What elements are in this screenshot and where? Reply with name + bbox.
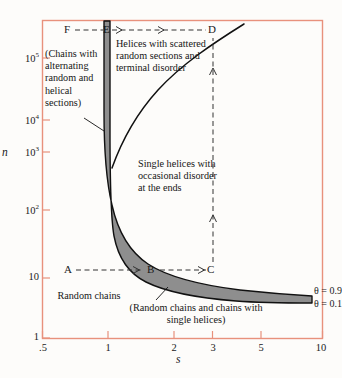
leader-alternating [84, 118, 104, 131]
theta-label-lower: θ = 0.1 [314, 299, 342, 309]
y-tick-100000: 105 [8, 52, 39, 64]
y-tick-100-exponent: 2 [36, 203, 40, 211]
y-axis-title: n [2, 146, 8, 158]
region-label-random-and-single-helices: (Random chains and chains with single he… [129, 302, 263, 326]
point-label-A: A [64, 264, 72, 275]
x-tick-5: 5 [250, 343, 272, 354]
point-label-E: E [103, 24, 110, 35]
region-label-single-helices: Single helices with occasional disorder … [138, 158, 220, 195]
y-tick-100000-exponent: 5 [36, 51, 40, 59]
region-label-helices-scattered: Helices with scattered random sections a… [116, 38, 208, 75]
y-tick-1000: 103 [8, 146, 39, 158]
x-tick-1: 1 [97, 343, 119, 354]
y-tick-10000: 104 [8, 114, 39, 126]
y-tick-10: 10 [14, 272, 39, 283]
x-tick-2: 2 [163, 343, 185, 354]
y-tick-1000-exponent: 3 [36, 145, 40, 153]
x-tick-3: 3 [202, 343, 224, 354]
x-axis-ticks [43, 331, 323, 338]
point-label-C: C [207, 264, 214, 275]
theta-label-upper: θ = 0.9 [314, 286, 342, 296]
x-axis-title: s [176, 353, 180, 365]
y-tick-1: 1 [20, 332, 39, 343]
y-tick-100: 102 [8, 204, 39, 216]
point-label-D: D [208, 24, 216, 35]
x-tick-10: 10 [310, 343, 332, 354]
y-tick-10000-exponent: 4 [36, 113, 40, 121]
region-label-alternating-chains: (Chains with alternating random and heli… [45, 48, 107, 109]
region-label-random-chains: Random chains [56, 290, 122, 302]
point-label-F: F [64, 24, 70, 35]
x-tick-0_5: .5 [32, 343, 54, 354]
point-label-B: B [147, 264, 154, 275]
